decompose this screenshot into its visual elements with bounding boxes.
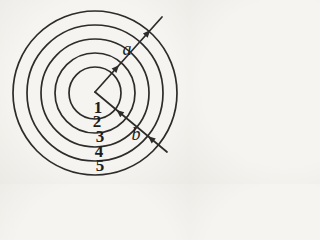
transition-b-label: b <box>132 124 141 144</box>
shell-number-5: 5 <box>96 156 105 175</box>
diagram-svg: ab12345 <box>0 0 190 184</box>
transition-a-label: a <box>123 39 132 59</box>
figure-canvas: ab12345 <box>0 0 190 184</box>
